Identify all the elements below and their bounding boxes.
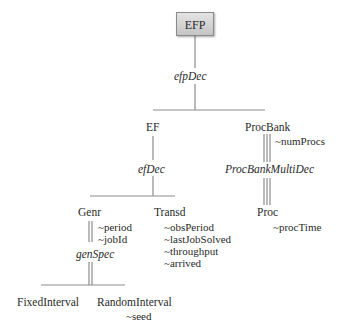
var-lastjobsolved: ~lastJobSolved bbox=[164, 233, 231, 246]
var-obsperiod: ~obsPeriod bbox=[164, 221, 214, 234]
node-proc: Proc bbox=[257, 206, 278, 219]
decomposition-efdec: efDec bbox=[138, 163, 165, 176]
var-jobid: ~jobId bbox=[98, 233, 127, 246]
var-throughput: ~throughput bbox=[164, 245, 218, 258]
decomposition-genspec: genSpec bbox=[76, 248, 114, 261]
var-seed: ~seed bbox=[126, 310, 152, 323]
node-procbank: ProcBank bbox=[245, 121, 290, 134]
var-arrived: ~arrived bbox=[164, 257, 201, 270]
node-genr: Genr bbox=[78, 206, 101, 219]
node-ef: EF bbox=[146, 121, 159, 134]
decomposition-procbankmultidec: ProcBankMultiDec bbox=[225, 163, 314, 176]
decomposition-efpdec: efpDec bbox=[174, 70, 207, 83]
var-numprocs: ~numProcs bbox=[275, 135, 325, 148]
var-proctime: ~procTime bbox=[273, 221, 321, 234]
node-randominterval: RandomInterval bbox=[97, 296, 172, 309]
var-period: ~period bbox=[98, 221, 132, 234]
node-fixedinterval: FixedInterval bbox=[17, 296, 79, 309]
root-node-efp: EFP bbox=[176, 12, 214, 36]
node-transd: Transd bbox=[154, 206, 186, 219]
